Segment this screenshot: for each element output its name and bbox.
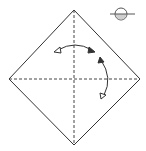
turn-over-icon [110, 8, 135, 20]
origami-diagram [0, 0, 146, 151]
